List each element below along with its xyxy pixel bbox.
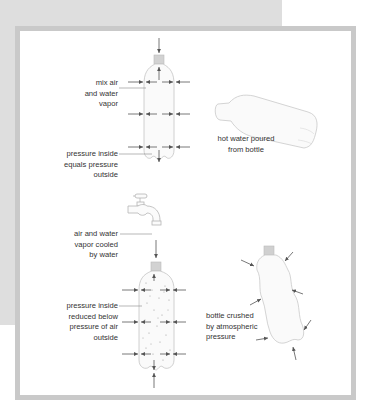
faucet-icon — [128, 194, 161, 225]
diagram-artwork — [0, 0, 366, 417]
label-crushed: bottle crushed by atmospheric pressure — [206, 311, 276, 343]
label-pressure-equal: pressure inside equals pressure outside — [50, 149, 118, 181]
label-cooled: air and water vapor cooled by water — [52, 229, 118, 261]
label-pressure-reduced: pressure inside reduced below pressure o… — [50, 301, 118, 343]
label-mix-air: mix air and water vapor — [60, 78, 118, 110]
label-hot-water: hot water poured from bottle — [205, 134, 287, 155]
